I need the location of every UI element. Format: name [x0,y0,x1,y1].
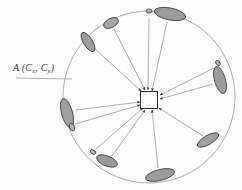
particle-ellipse [102,15,120,30]
label-mid-text: , C [35,62,47,73]
particle-ellipse [211,65,229,95]
connector-line [93,47,141,91]
connector-line [152,22,167,91]
label-subscript-x: x [32,67,35,74]
diagram-svg [0,0,242,190]
connector-line [159,108,203,136]
particle-ellipse [144,166,176,184]
connector-line [160,84,213,99]
particle-ellipse [195,130,220,150]
label-close-paren: ) [51,62,55,73]
particle-ellipse [153,5,187,23]
annotation-leader-line [16,78,72,79]
particle-ellipse [89,149,96,155]
connector-line [75,105,140,124]
particle-ellipse [146,9,152,13]
connector-line [160,68,214,95]
connector-line [76,102,140,110]
particle-ellipse [215,59,221,66]
figure-canvas: A (Cx, Cy) [0,0,242,190]
leader-line [16,78,72,79]
label-main-text: A (C [13,62,32,73]
center-point-label: A (Cx, Cy) [13,62,54,73]
particle-ellipse [78,30,97,53]
label-subscript-y: y [48,67,51,74]
connector-line [148,18,149,90]
center-square-group [141,92,158,109]
connector-line [152,110,158,168]
connector-line [112,110,145,156]
connector-line [96,108,143,149]
center-square-shape [141,92,158,109]
